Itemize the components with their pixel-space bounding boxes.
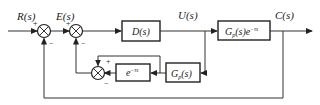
sum3-minus-sign: − xyxy=(104,79,109,88)
error-label: E(s) xyxy=(55,10,75,23)
controller-label: D(s) xyxy=(131,26,150,38)
control-label: U(s) xyxy=(178,9,198,22)
sum2-plus-sign: + xyxy=(66,19,71,28)
sum2-minus-sign: − xyxy=(81,39,86,48)
smith-predictor-diagram: R(s) + − E(s) + − D(s) U(s) Gp(s)e−τs C(… xyxy=(0,0,320,105)
model-input-line xyxy=(201,31,205,73)
summing-junction-2 xyxy=(70,25,83,38)
model-label: Gp(s) xyxy=(171,68,192,80)
sum3-plus-sign: + xyxy=(106,57,111,66)
summing-junction-3 xyxy=(92,67,105,80)
outer-feedback-line xyxy=(44,31,283,98)
sum1-minus-sign: − xyxy=(49,39,54,48)
summing-junction-1 xyxy=(38,25,51,38)
sum1-plus-sign: + xyxy=(33,19,38,28)
output-label: C(s) xyxy=(275,9,294,22)
